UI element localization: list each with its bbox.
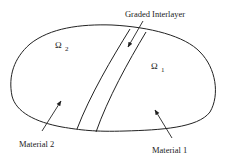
bimaterial-domain-diagram: Graded Interlayer Ω 2 Ω 1 Material 2 Mat… xyxy=(0,0,228,163)
interlayer-boundary-right xyxy=(96,32,146,132)
material1-arrow-icon xyxy=(155,110,172,138)
interlayer-label: Graded Interlayer xyxy=(125,9,185,19)
material1-label: Material 1 xyxy=(152,145,187,155)
domain-boundary xyxy=(11,25,216,131)
omega2-label: Ω 2 xyxy=(55,40,69,53)
material2-label: Material 2 xyxy=(19,139,54,149)
interlayer-arrow-icon xyxy=(128,21,143,47)
omega1-label: Ω 1 xyxy=(151,61,165,74)
